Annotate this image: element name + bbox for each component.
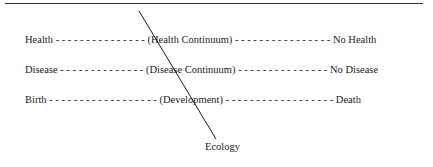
health-label: Health [25, 34, 53, 45]
disease-continuum-label: (Disease Continuum) [146, 64, 236, 75]
no-health-label: No Health [333, 34, 376, 45]
death-label: Death [336, 94, 361, 105]
no-disease-label: No Disease [330, 64, 378, 75]
development-row: Birth - - - - - - - - - - - - - - - - - … [25, 94, 361, 106]
dashes: - - - - - - - - - - - - - - - - - - [47, 94, 160, 105]
development-label: (Development) [159, 94, 223, 105]
health-continuum-row: Health - - - - - - - - - - - - - - - (He… [25, 34, 376, 46]
dashes: - - - - - - - - - - - - - - - - - - [223, 94, 336, 105]
health-continuum-label: (Health Continuum) [147, 34, 232, 45]
birth-label: Birth [25, 94, 47, 105]
dashes: - - - - - - - - - - - - - - - [236, 64, 330, 75]
ecology-label: Ecology [205, 141, 240, 153]
disease-continuum-row: Disease - - - - - - - - - - - - - - (Dis… [25, 64, 378, 76]
dashes: - - - - - - - - - - - - - - [58, 64, 146, 75]
dashes: - - - - - - - - - - - - - - - [53, 34, 147, 45]
dashes: - - - - - - - - - - - - - - - - [232, 34, 333, 45]
disease-label: Disease [25, 64, 58, 75]
